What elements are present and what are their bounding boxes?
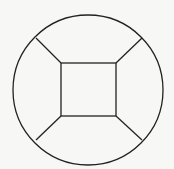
connector-lines bbox=[36, 38, 142, 140]
circle-square-diagram bbox=[0, 0, 174, 169]
connector-top-right bbox=[116, 38, 142, 63]
connector-bottom-left bbox=[36, 116, 61, 140]
inner-square bbox=[61, 63, 116, 116]
outer-circle bbox=[13, 15, 163, 165]
connector-top-left bbox=[36, 38, 61, 63]
connector-bottom-right bbox=[116, 116, 142, 140]
